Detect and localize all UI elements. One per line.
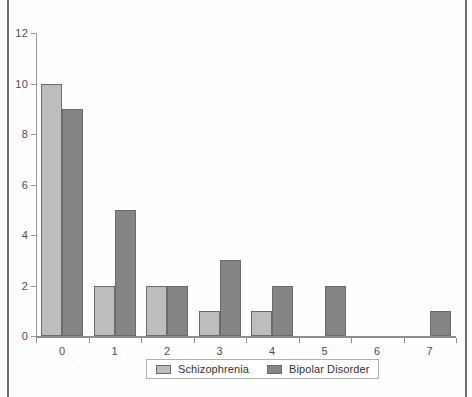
- y-axis-tick-label: 8: [22, 128, 28, 140]
- y-axis-tick-label: 12: [15, 27, 28, 39]
- legend-label: Schizophrenia: [178, 363, 249, 375]
- legend-label: Bipolar Disorder: [289, 363, 369, 375]
- y-axis-tick: [31, 33, 36, 34]
- y-axis-tick: [31, 185, 36, 186]
- y-axis-tick: [31, 286, 36, 287]
- y-axis-tick-label: 10: [15, 78, 28, 90]
- x-axis-tick: [299, 338, 300, 343]
- x-axis-tick: [194, 338, 195, 343]
- x-axis-tick-label: 3: [217, 345, 223, 357]
- x-axis-tick-label: 0: [59, 345, 65, 357]
- x-axis-tick: [246, 338, 247, 343]
- y-axis-tick-label: 4: [22, 229, 28, 241]
- x-axis-tick: [456, 338, 457, 343]
- x-axis-tick-label: 7: [427, 345, 433, 357]
- x-axis-tick-label: 1: [112, 345, 118, 357]
- y-axis-tick-label: 6: [22, 179, 28, 191]
- bar: [325, 286, 346, 337]
- y-axis-line: [36, 33, 37, 336]
- x-axis-tick-label: 2: [164, 345, 170, 357]
- chart-legend: SchizophreniaBipolar Disorder: [146, 359, 379, 379]
- bar: [199, 311, 220, 336]
- legend-item: Bipolar Disorder: [267, 363, 369, 375]
- legend-swatch-icon: [156, 365, 171, 374]
- bar: [146, 286, 167, 337]
- plot-area: 024681012 01234567: [36, 33, 456, 336]
- bar: [430, 311, 451, 336]
- bar: [94, 286, 115, 337]
- bar-chart-figure: 024681012 01234567 SchizophreniaBipolar …: [0, 0, 472, 397]
- y-axis-tick-label: 2: [22, 280, 28, 292]
- figure-border-right: [465, 0, 467, 397]
- bar: [220, 260, 241, 336]
- x-axis-tick: [36, 338, 37, 343]
- x-axis-tick: [141, 338, 142, 343]
- x-axis-tick: [404, 338, 405, 343]
- legend-swatch-icon: [267, 365, 282, 374]
- bar: [62, 109, 83, 336]
- x-axis-tick-label: 6: [374, 345, 380, 357]
- bar: [272, 286, 293, 337]
- y-axis-tick: [31, 134, 36, 135]
- y-axis-tick: [31, 336, 36, 337]
- legend-item: Schizophrenia: [156, 363, 249, 375]
- figure-border-left: [7, 0, 9, 397]
- x-axis-tick-label: 4: [269, 345, 275, 357]
- bar: [167, 286, 188, 337]
- x-axis-tick-label: 5: [322, 345, 328, 357]
- x-axis-tick: [89, 338, 90, 343]
- bar: [251, 311, 272, 336]
- x-axis-tick: [351, 338, 352, 343]
- y-axis-tick-label: 0: [22, 330, 28, 342]
- bar: [41, 84, 62, 337]
- bar: [115, 210, 136, 336]
- y-axis-tick: [31, 84, 36, 85]
- y-axis-tick: [31, 235, 36, 236]
